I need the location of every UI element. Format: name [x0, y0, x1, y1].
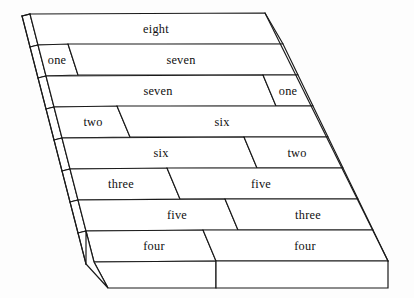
label-row-3-part-0: two	[83, 115, 102, 129]
row-7	[86, 230, 388, 262]
label-row-2-part-0: seven	[143, 84, 172, 98]
front-face-right	[216, 261, 388, 288]
label-row-1-part-0: one	[48, 53, 67, 67]
label-row-3-part-1: six	[214, 115, 229, 129]
row-2	[46, 75, 313, 107]
slab-diagram: eight one seven seven one two six six tw…	[0, 0, 414, 298]
front-face-left	[94, 261, 216, 288]
figure-root: eight one seven seven one two six six tw…	[0, 0, 414, 298]
label-row-4-part-1: two	[287, 146, 306, 160]
label-row-5-part-0: three	[108, 177, 134, 191]
label-row-1-part-1: seven	[166, 53, 195, 67]
label-row-7-part-0: four	[143, 239, 165, 253]
row-6	[78, 199, 373, 231]
label-row-7-part-1: four	[294, 239, 316, 253]
label-row-5-part-1: five	[251, 177, 271, 191]
cell-row-6-part-0[interactable]	[78, 199, 238, 231]
label-row-0-part-0: eight	[143, 22, 169, 36]
label-row-6-part-0: five	[167, 208, 187, 222]
label-row-6-part-1: three	[295, 208, 321, 222]
label-row-2-part-1: one	[279, 84, 298, 98]
label-row-4-part-0: six	[153, 146, 168, 160]
